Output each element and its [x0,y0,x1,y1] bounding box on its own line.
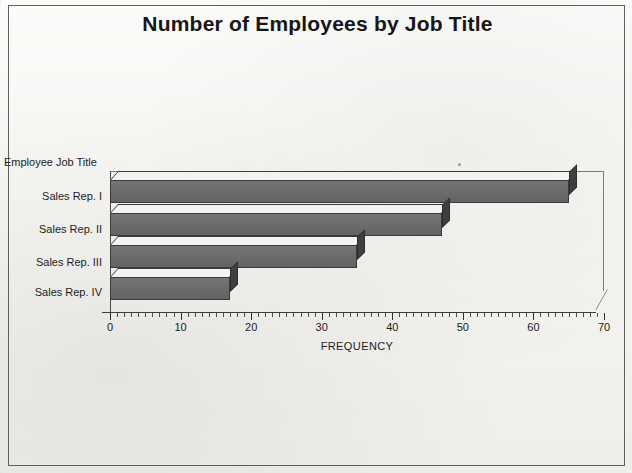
x-tick-minor [195,313,196,317]
x-tick-label-40: 40 [372,321,412,333]
x-tick-minor [223,313,224,317]
x-tick-major [181,313,182,320]
x-tick-minor [188,313,189,317]
x-tick-minor [498,313,499,317]
x-axis-title: FREQUENCY [110,340,604,352]
x-tick-major [251,313,252,320]
x-tick-minor [258,313,259,317]
x-tick-minor [138,313,139,317]
x-tick-minor [174,313,175,317]
x-tick-minor [583,313,584,317]
y-axis-title: Employee Job Title [4,156,97,168]
plot-wall-right-edge [603,171,604,291]
bar-top-face [110,171,577,180]
x-tick-minor [576,313,577,317]
x-tick-label-10: 10 [161,321,201,333]
x-tick-minor [272,313,273,317]
x-tick-minor [350,313,351,317]
x-tick-minor [442,313,443,317]
bar-2 [110,213,442,236]
x-tick-minor [265,313,266,317]
x-tick-minor [562,313,563,317]
x-tick-minor [166,313,167,317]
x-tick-minor [512,313,513,317]
x-tick-minor [209,313,210,317]
x-tick-minor [131,313,132,317]
bar-front-face [110,277,230,300]
x-tick-minor [152,313,153,317]
x-tick-minor [308,313,309,317]
x-tick-major [110,313,111,320]
x-tick-minor [279,313,280,317]
x-tick-minor [216,313,217,317]
category-label-sales-rep-iii: Sales Rep. III [0,256,102,268]
x-tick-minor [124,313,125,317]
x-tick-minor [301,313,302,317]
bar-top-face [110,236,365,245]
x-tick-minor [421,313,422,317]
x-tick-label-30: 30 [302,321,342,333]
x-tick-minor [145,313,146,317]
x-tick-minor [505,313,506,317]
x-tick-minor [435,313,436,317]
x-tick-major [392,313,393,320]
x-tick-minor [597,313,598,317]
x-tick-minor [244,313,245,317]
x-tick-minor [555,313,556,317]
x-tick-minor [399,313,400,317]
bar-1 [110,180,569,203]
x-tick-minor [159,313,160,317]
x-tick-label-20: 20 [231,321,271,333]
x-tick-major [604,313,605,320]
category-label-sales-rep-i: Sales Rep. I [0,190,102,202]
x-tick-label-0: 0 [90,321,130,333]
x-tick-minor [343,313,344,317]
x-tick-minor [230,313,231,317]
x-tick-minor [477,313,478,317]
x-tick-label-50: 50 [443,321,483,333]
x-tick-minor [336,313,337,317]
x-tick-minor [526,313,527,317]
x-tick-minor [428,313,429,317]
x-tick-minor [470,313,471,317]
bar-4 [110,277,230,300]
x-tick-minor [456,313,457,317]
plot-floor-right-edge [595,289,609,313]
x-tick-major [533,313,534,320]
chart-title: Number of Employees by Job Title [9,12,626,36]
x-tick-minor [491,313,492,317]
x-tick-minor [569,313,570,317]
x-tick-minor [519,313,520,317]
scan-artifact-speck [458,163,461,166]
category-label-sales-rep-ii: Sales Rep. II [0,223,102,235]
x-tick-minor [371,313,372,317]
x-tick-major [463,313,464,320]
x-tick-minor [413,313,414,317]
x-tick-minor [540,313,541,317]
x-tick-minor [286,313,287,317]
x-tick-label-70: 70 [584,321,624,333]
x-tick-major [322,313,323,320]
scanned-page: Number of Employees by Job Title Employe… [0,0,632,473]
x-tick-minor [357,313,358,317]
x-tick-minor [385,313,386,317]
bar-top-face [110,204,450,213]
x-tick-minor [293,313,294,317]
x-tick-minor [117,313,118,317]
category-label-sales-rep-iv: Sales Rep. IV [0,286,102,298]
x-tick-minor [237,313,238,317]
x-tick-minor [484,313,485,317]
x-tick-minor [315,313,316,317]
x-tick-minor [406,313,407,317]
bar-front-face [110,180,569,203]
x-tick-minor [590,313,591,317]
bar-front-face [110,213,442,236]
x-tick-minor [202,313,203,317]
x-tick-label-60: 60 [513,321,553,333]
bar-top-face [110,268,238,277]
x-tick-minor [449,313,450,317]
x-tick-minor [364,313,365,317]
x-tick-minor [548,313,549,317]
x-tick-minor [329,313,330,317]
x-tick-minor [378,313,379,317]
